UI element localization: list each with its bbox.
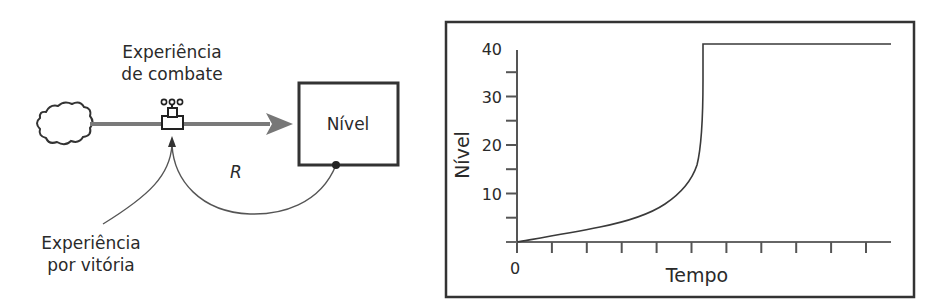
flow-label-line1: Experiência	[122, 42, 222, 62]
arrow-up-icon	[168, 136, 176, 147]
y-tick-label: 20	[482, 136, 502, 155]
input-link	[103, 145, 172, 224]
stock-label: Nível	[327, 114, 370, 134]
loop-label: R	[230, 162, 242, 182]
input-label-line1: Experiência	[41, 233, 141, 253]
x-tick-label: 0	[510, 259, 520, 278]
stock-flow-diagram: Nível Experiência de combate R Experiênc…	[37, 42, 398, 275]
link-origin-dot	[332, 161, 340, 169]
valve-icon	[161, 99, 183, 129]
y-tick-label: 40	[482, 40, 502, 59]
arrow-right-icon	[266, 113, 293, 135]
input-label-line2: por vitória	[47, 255, 135, 275]
y-tick-label: 10	[482, 185, 502, 204]
y-tick-label: 30	[482, 88, 502, 107]
x-axis-title: Tempo	[665, 264, 728, 286]
figure: Nível Experiência de combate R Experiênc…	[0, 0, 949, 308]
y-axis-title: Nível	[451, 131, 473, 179]
chart: 10 20 30 40 0 Tempo Nível	[446, 22, 914, 297]
flow-label-line2: de combate	[121, 64, 222, 84]
cloud-icon	[37, 102, 93, 144]
